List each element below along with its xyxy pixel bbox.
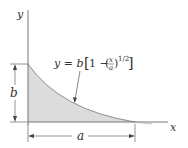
curve-equation: y = b [ 1 − ( x a ) 1/2 ] <box>53 55 133 72</box>
svg-text:x: x <box>109 56 113 64</box>
area-diagram: y x b a y = b [ 1 − ( x a ) 1/2 ] <box>0 0 188 148</box>
x-axis-label: x <box>170 121 177 134</box>
b-dimension-label: b <box>10 86 18 100</box>
b-arrow-up <box>13 64 17 70</box>
a-arrow-left <box>28 134 34 138</box>
svg-text:]: ] <box>128 55 133 71</box>
svg-text:a: a <box>109 64 113 72</box>
shaded-area <box>28 64 135 122</box>
y-axis-label: y <box>16 8 24 21</box>
svg-text:y = b: y = b <box>53 57 83 70</box>
a-dimension-label: a <box>77 129 84 143</box>
leader-arrowhead <box>73 97 77 103</box>
a-arrow-right <box>129 134 135 138</box>
b-arrow-down <box>13 116 17 122</box>
equation-leader <box>75 71 80 100</box>
